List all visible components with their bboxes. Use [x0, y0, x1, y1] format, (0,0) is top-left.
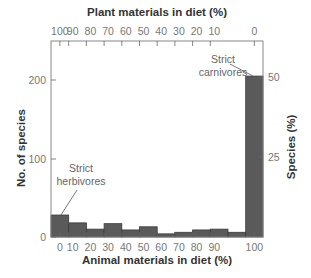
x-tick-label: 50	[138, 241, 150, 253]
x-tick-label: 90	[208, 241, 220, 253]
bar-61-70	[175, 232, 193, 237]
bar-41-50	[140, 227, 158, 237]
leader-line	[61, 190, 77, 215]
y-tick-label: 100	[28, 153, 46, 165]
top-tick-label: 50	[138, 25, 150, 37]
bar-1-10	[69, 223, 87, 237]
top-tick-label: 20	[191, 25, 203, 37]
top-tick-label: 30	[173, 25, 185, 37]
annotation-carnivores-line1: Strict	[211, 53, 235, 65]
top-tick-label: 80	[85, 25, 97, 37]
y-tick-label: 200	[28, 74, 46, 86]
annotation-herbivores-line1: Strict	[69, 162, 93, 174]
bars	[51, 76, 263, 237]
bar-71-80	[193, 230, 211, 237]
top-tick-label: 70	[102, 25, 114, 37]
x-tick-label: 80	[191, 241, 203, 253]
x-tick-label: 70	[173, 241, 185, 253]
x-tick-label: 60	[155, 241, 167, 253]
x-tick-label: 100	[246, 241, 264, 253]
annotation-herbivores-line2: herbivores	[56, 175, 105, 187]
y2-tick-label: 50	[268, 71, 280, 83]
top-tick-label: 60	[120, 25, 132, 37]
y2-tick-label: 25	[268, 151, 280, 163]
x-tick-label: 20	[85, 241, 97, 253]
top-tick-label: 0	[251, 25, 257, 37]
annotation-carnivores: Strict carnivores	[199, 53, 253, 78]
top-tick-label: 90	[67, 25, 79, 37]
x-tick-label: 30	[102, 241, 114, 253]
annotation-carnivores-line2: carnivores	[199, 66, 247, 78]
bar-21-30	[104, 224, 122, 237]
bar-100	[246, 76, 263, 237]
histogram-chart: 1009080706050403020100 01020304050607080…	[0, 0, 311, 278]
bar-11-20	[86, 229, 104, 237]
y-tick-label: 0	[40, 231, 46, 243]
x-tick-label: 0	[57, 241, 63, 253]
bar-31-40	[122, 230, 140, 237]
top-tick-label: 10	[208, 25, 220, 37]
bar-91-99	[228, 232, 246, 237]
top-tick-label: 40	[155, 25, 167, 37]
top-axis-ticks: 1009080706050403020100	[51, 25, 257, 46]
annotation-herbivores: Strict herbivores	[56, 162, 105, 215]
bar-81-90	[210, 229, 228, 237]
x-tick-label: 40	[120, 241, 132, 253]
x-tick-label: 10	[67, 241, 79, 253]
